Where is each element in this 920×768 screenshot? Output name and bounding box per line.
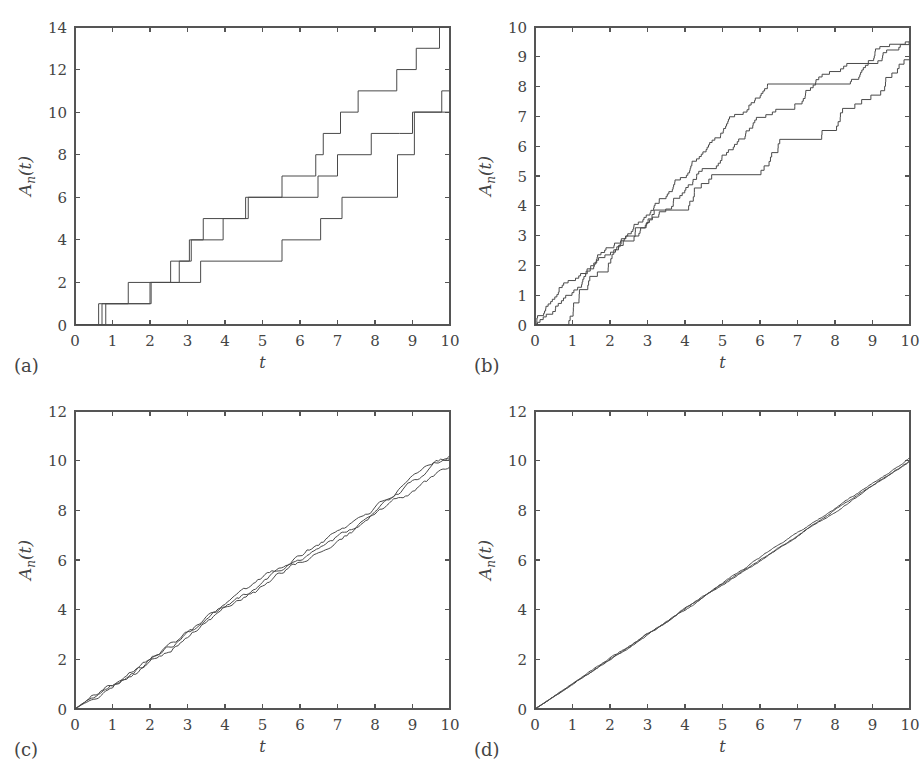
x-tick-label: 3 xyxy=(183,716,193,734)
y-tick-label: 12 xyxy=(48,403,67,421)
panel-d: 012345678910024681012tAn(t)(d) xyxy=(460,384,920,768)
panel-letter: (b) xyxy=(474,355,500,376)
y-tick-label: 0 xyxy=(517,317,527,335)
x-tick-label: 4 xyxy=(220,332,230,350)
series-group xyxy=(535,42,910,325)
y-tick-label: 0 xyxy=(517,701,527,719)
x-tick-label: 9 xyxy=(408,332,418,350)
y-tick-label: 10 xyxy=(508,19,527,37)
series-line-2 xyxy=(75,459,450,709)
y-tick-label: 14 xyxy=(48,19,67,37)
y-tick-label: 8 xyxy=(517,502,527,520)
series-line-1 xyxy=(75,456,450,709)
x-tick-label: 3 xyxy=(183,332,193,350)
panel-letter: (a) xyxy=(14,355,39,376)
y-axis-label-text: An(t) xyxy=(475,156,498,198)
y-axis-label-text: An(t) xyxy=(475,540,498,582)
panel-letter: (d) xyxy=(474,739,500,760)
series-line-1 xyxy=(75,27,450,325)
y-tick-label: 9 xyxy=(517,48,527,66)
chart-c: 012345678910024681012tAn(t)(c) xyxy=(0,384,460,768)
x-tick-label: 8 xyxy=(830,716,840,734)
panel-b: 012345678910012345678910tAn(t)(b) xyxy=(460,0,920,384)
x-tick-label: 10 xyxy=(900,332,919,350)
series-line-2 xyxy=(535,42,910,325)
x-tick-label: 4 xyxy=(220,716,230,734)
series-line-3 xyxy=(75,112,450,325)
x-tick-label: 10 xyxy=(900,716,919,734)
y-tick-label: 2 xyxy=(517,257,527,275)
x-tick-label: 7 xyxy=(793,332,803,350)
x-tick-label: 6 xyxy=(295,716,305,734)
x-tick-label: 4 xyxy=(680,332,690,350)
x-axis-label: t xyxy=(259,737,266,756)
series-group xyxy=(75,456,450,709)
x-axis-label: t xyxy=(259,353,266,372)
x-tick-label: 0 xyxy=(530,332,540,350)
y-tick-label: 8 xyxy=(517,78,527,96)
x-tick-label: 4 xyxy=(680,716,690,734)
plot-frame xyxy=(75,27,450,325)
y-tick-label: 8 xyxy=(57,502,67,520)
y-tick-label: 6 xyxy=(57,189,67,207)
y-tick-label: 8 xyxy=(57,146,67,164)
chart-b: 012345678910012345678910tAn(t)(b) xyxy=(460,0,920,384)
series-line-1 xyxy=(535,42,910,325)
panel-a: 01234567891002468101214tAn(t)(a) xyxy=(0,0,460,384)
x-tick-label: 5 xyxy=(258,716,268,734)
x-tick-label: 5 xyxy=(258,332,268,350)
x-tick-label: 1 xyxy=(108,716,118,734)
x-tick-label: 9 xyxy=(868,332,878,350)
y-tick-label: 5 xyxy=(517,168,527,186)
x-tick-label: 2 xyxy=(605,716,615,734)
series-line-3 xyxy=(75,467,450,709)
plot-frame xyxy=(75,411,450,709)
x-tick-label: 3 xyxy=(643,332,653,350)
y-axis-label-text: An(t) xyxy=(15,156,38,198)
y-tick-label: 12 xyxy=(508,403,527,421)
x-tick-label: 1 xyxy=(568,716,578,734)
y-tick-label: 10 xyxy=(48,452,67,470)
y-tick-label: 1 xyxy=(517,287,527,305)
series-line-3 xyxy=(535,60,910,325)
y-tick-label: 0 xyxy=(57,701,67,719)
y-tick-label: 0 xyxy=(57,317,67,335)
x-tick-label: 0 xyxy=(530,716,540,734)
y-tick-label: 10 xyxy=(508,452,527,470)
y-tick-label: 12 xyxy=(48,61,67,79)
series-group xyxy=(75,27,450,325)
x-tick-label: 0 xyxy=(70,332,80,350)
chart-a: 01234567891002468101214tAn(t)(a) xyxy=(0,0,460,384)
chart-d: 012345678910024681012tAn(t)(d) xyxy=(460,384,920,768)
x-tick-label: 1 xyxy=(568,332,578,350)
x-tick-label: 9 xyxy=(408,716,418,734)
series-group xyxy=(535,458,910,709)
x-tick-label: 5 xyxy=(718,716,728,734)
y-axis-label-text: An(t) xyxy=(15,540,38,582)
x-tick-label: 2 xyxy=(605,332,615,350)
x-tick-label: 1 xyxy=(108,332,118,350)
x-tick-label: 7 xyxy=(793,716,803,734)
y-axis-label: An(t) xyxy=(15,156,38,198)
y-tick-label: 10 xyxy=(48,104,67,122)
x-tick-label: 8 xyxy=(370,332,380,350)
x-tick-label: 6 xyxy=(755,332,765,350)
series-line-3 xyxy=(535,462,910,709)
x-tick-label: 7 xyxy=(333,332,343,350)
y-tick-label: 7 xyxy=(517,108,527,126)
x-tick-label: 6 xyxy=(755,716,765,734)
plot-frame xyxy=(535,27,910,325)
y-axis-label: An(t) xyxy=(475,540,498,582)
y-axis-label: An(t) xyxy=(15,540,38,582)
y-tick-label: 6 xyxy=(517,552,527,570)
x-axis-label: t xyxy=(719,737,726,756)
x-tick-label: 9 xyxy=(868,716,878,734)
x-axis-label: t xyxy=(719,353,726,372)
y-tick-label: 6 xyxy=(57,552,67,570)
x-tick-label: 7 xyxy=(333,716,343,734)
x-tick-label: 5 xyxy=(718,332,728,350)
y-tick-label: 4 xyxy=(517,197,527,215)
y-tick-label: 2 xyxy=(57,274,67,292)
y-axis-label: An(t) xyxy=(475,156,498,198)
x-tick-label: 3 xyxy=(643,716,653,734)
